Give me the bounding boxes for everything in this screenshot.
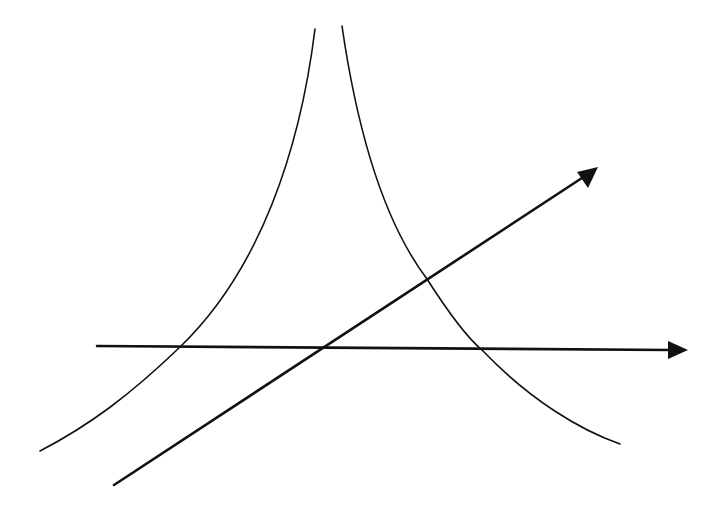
diagonal-arrowhead-icon [577,167,598,188]
diagonal-arrow-line [114,176,585,485]
left-curve [40,29,315,451]
horizontal-arrow-line [97,346,670,350]
right-curve [342,26,620,444]
diagram-canvas [0,0,718,510]
horizontal-arrowhead-icon [668,341,688,359]
diagram-svg [0,0,718,510]
